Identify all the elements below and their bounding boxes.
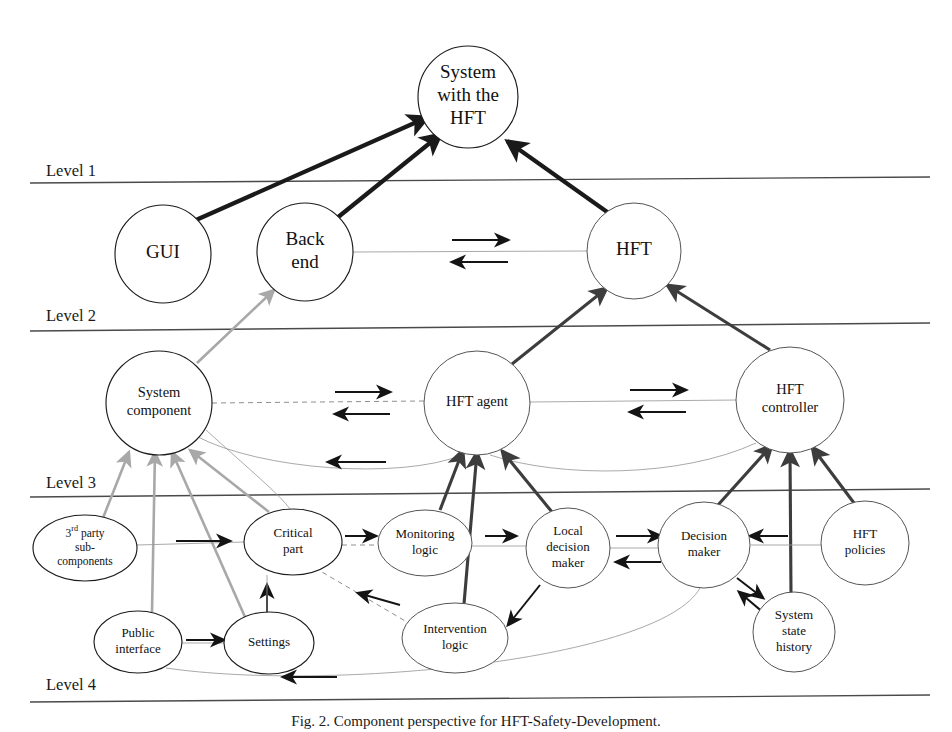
node-label-line: HFT	[616, 238, 652, 259]
node-back-end[interactable]: Backend	[257, 203, 353, 301]
node-local-decision-maker[interactable]: Localdecisionmaker	[526, 508, 610, 588]
node-label-line: HFT agent	[446, 393, 508, 409]
edge-statehistory-to-ctrl	[790, 450, 791, 595]
node-hft-policies[interactable]: HFTpolicies	[821, 501, 909, 585]
node-label-line: component	[127, 402, 191, 418]
node-label-line: controller	[762, 399, 819, 415]
node-hft-controller[interactable]: HFTcontroller	[736, 347, 844, 453]
level-4-label: Level 4	[46, 675, 96, 694]
node-label-line: decision	[546, 539, 590, 554]
figure-caption: Fig. 2. Component perspective for HFT-Sa…	[291, 713, 660, 729]
node-label-gui: GUI	[146, 241, 180, 262]
node-label-line: part	[283, 541, 304, 556]
node-label-line: Monitoring	[395, 526, 455, 541]
node-label-line: Critical	[274, 525, 313, 540]
node-label-line: interface	[115, 641, 161, 656]
node-third-party-subcomponents[interactable]: 3rd partysub-components	[33, 515, 137, 581]
node-label-line: GUI	[146, 241, 180, 262]
hft-architecture-diagram: Systemwith theHFTGUIBackendHFTSystemcomp…	[0, 0, 952, 732]
node-label-line: history	[776, 639, 813, 654]
node-label-line: policies	[845, 542, 885, 557]
node-intervention-logic[interactable]: Interventionlogic	[402, 603, 508, 673]
node-label-line: Intervention	[423, 621, 487, 636]
node-decision-maker[interactable]: Decisionmaker	[658, 502, 750, 588]
node-label-line: maker	[552, 555, 585, 570]
node-label-hft: HFT	[616, 238, 652, 259]
node-label-line: Settings	[248, 634, 290, 649]
node-label-line: sub-	[75, 541, 95, 553]
node-label-line: Local	[553, 523, 583, 538]
node-system-with-hft[interactable]: Systemwith theHFT	[418, 46, 518, 148]
node-gui[interactable]: GUI	[115, 205, 211, 303]
node-system-state-history[interactable]: Systemstatehistory	[753, 592, 835, 672]
node-label-line: Decision	[681, 528, 728, 543]
node-label-line: maker	[688, 544, 721, 559]
figure-canvas: Systemwith theHFTGUIBackendHFTSystemcomp…	[0, 0, 952, 732]
node-label-line: System	[775, 607, 813, 622]
node-public-interface[interactable]: Publicinterface	[94, 611, 182, 673]
node-label-line: HFT	[776, 381, 804, 397]
node-label-line: state	[782, 623, 806, 638]
level-2-label: Level 2	[46, 306, 96, 325]
node-label-settings: Settings	[248, 634, 290, 649]
node-label-line: logic	[412, 542, 438, 557]
node-label-public-interface: Publicinterface	[115, 625, 161, 656]
node-label-line: Back	[285, 228, 325, 249]
node-label-line: Public	[121, 625, 154, 640]
node-hft[interactable]: HFT	[587, 203, 681, 299]
node-system-component[interactable]: Systemcomponent	[106, 351, 212, 455]
node-label-line: logic	[442, 637, 468, 652]
node-settings[interactable]: Settings	[224, 612, 314, 674]
node-hft-agent[interactable]: HFT agent	[424, 351, 530, 455]
node-critical-part[interactable]: Criticalpart	[244, 509, 342, 575]
level-1-label: Level 1	[46, 161, 96, 180]
node-label-line: System	[440, 61, 496, 82]
node-label-hft-agent: HFT agent	[446, 393, 508, 409]
level-3-label: Level 3	[46, 473, 96, 492]
node-label-line: HFT	[450, 107, 486, 128]
node-label-line: with the	[437, 84, 499, 105]
node-label-line: HFT	[853, 526, 878, 541]
node-label-line: components	[57, 555, 113, 568]
node-monitoring-logic[interactable]: Monitoringlogic	[378, 510, 472, 576]
node-label-line: System	[138, 384, 181, 400]
node-label-line: end	[291, 251, 319, 272]
